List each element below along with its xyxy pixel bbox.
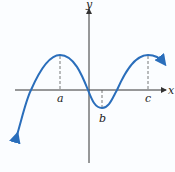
graph-canvas: y x a b c <box>0 0 175 172</box>
function-graph: y x a b c <box>0 0 175 172</box>
function-curve <box>17 55 164 135</box>
y-axis-label: y <box>85 0 93 11</box>
point-label-a: a <box>57 92 64 105</box>
point-label-c: c <box>145 92 151 105</box>
x-axis-label: x <box>168 84 175 97</box>
point-label-b: b <box>99 112 106 125</box>
